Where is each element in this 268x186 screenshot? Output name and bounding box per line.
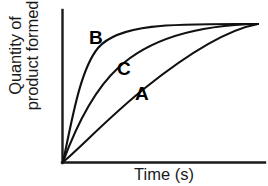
y-axis-title: Quantity of product formed bbox=[7, 0, 42, 131]
enzyme-reaction-progress-chart: B C A Quantity of product formed Time (s… bbox=[0, 0, 268, 186]
curve-label-a: A bbox=[135, 83, 149, 104]
y-axis-title-line-1: Quantity of bbox=[7, 0, 24, 131]
x-axis-title: Time (s) bbox=[62, 165, 266, 184]
curve-label-c: C bbox=[117, 58, 131, 79]
y-axis-title-line-2: product formed bbox=[24, 0, 41, 131]
curve-label-b: B bbox=[89, 27, 103, 48]
